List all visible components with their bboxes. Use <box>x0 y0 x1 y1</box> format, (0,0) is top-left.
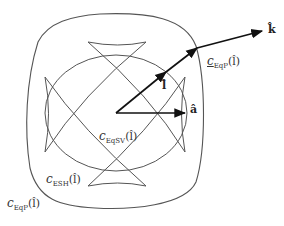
l-hat-label: l̂ <box>162 80 166 91</box>
k-hat-label: k̂ <box>268 24 276 35</box>
esh-cusp-curve <box>45 42 185 186</box>
k-hat-arrow <box>197 31 262 48</box>
eqp-direction-arrow <box>166 48 197 72</box>
a-hat-label: â <box>190 104 197 115</box>
eqp-outer-label: cEqP(l̂) <box>7 194 40 212</box>
eqsv-label: cEqSV(l̂) <box>99 127 137 145</box>
diagram-canvas <box>0 0 284 226</box>
esh-label: cESH(l̂) <box>46 170 81 188</box>
eqp-point-label: cEqP(l̂) <box>207 52 240 70</box>
l-hat-arrow <box>116 72 166 113</box>
